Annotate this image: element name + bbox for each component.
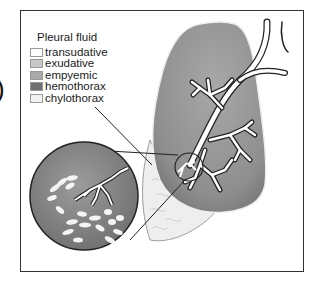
legend-label: chylothorax	[45, 93, 104, 105]
chylothorax-swatch	[30, 94, 43, 103]
lung-shape	[153, 22, 266, 213]
legend-item-hemothorax: hemothorax	[30, 81, 108, 93]
legend-label: exudative	[45, 58, 94, 70]
legend-item-chylothorax: chylothorax	[30, 93, 108, 105]
hemothorax-swatch	[30, 82, 43, 91]
pleural-fluid-legend: Pleural fluid transudative exudative emp…	[30, 32, 108, 104]
transudative-swatch	[30, 48, 43, 57]
legend-title: Pleural fluid	[37, 32, 108, 44]
legend-item-exudative: exudative	[30, 58, 108, 70]
legend-label: hemothorax	[45, 81, 106, 93]
empyemic-swatch	[30, 71, 43, 80]
exudative-swatch	[30, 59, 43, 68]
